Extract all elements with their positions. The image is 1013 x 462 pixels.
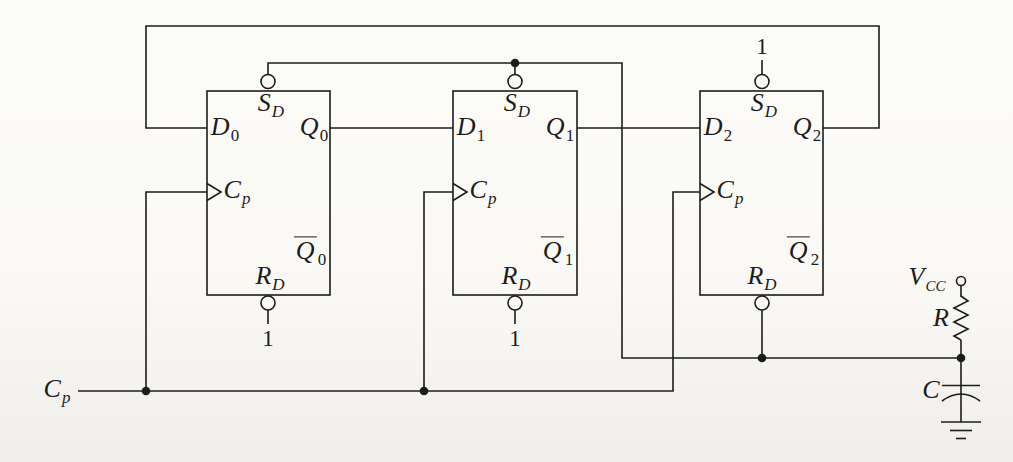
ff0-q-label: Q0 [300,114,328,144]
ff2-qbar-main: Q [787,236,810,264]
ff2-reset-label: RD [747,263,776,293]
resistor-label: R [933,305,949,331]
vcc-label: VCC [909,264,946,294]
ff0-reset-tie: 1 [262,326,274,351]
vcc-terminal-icon [957,277,966,286]
ff1-clock-label: Cp [470,177,497,207]
ff0-q-main: Q [300,112,319,141]
resistor-r: R [933,303,949,332]
ff0-clock-label: Cp [224,177,251,207]
ff0-reset-tie-label: 1 [262,327,274,350]
ff2-q-main: Q [793,112,812,141]
ff1-q-main: Q [546,112,565,141]
ff2-clock-main: C [717,175,734,204]
junction-clock-ff0 [142,387,151,396]
ff1-qbar-main: Q [541,236,564,264]
ff2-set-main: S [751,88,764,117]
clock-input-main: C [44,374,61,403]
wire-clock-ff0 [146,192,207,391]
ff1-reset-tie: 1 [509,326,521,351]
ff2-set-sub: D [765,102,777,121]
ff1-sd-bubble-icon [508,75,522,89]
capacitor-label: C [922,377,939,403]
junction-rd2 [758,354,767,363]
ff2-qbar-sub: 2 [811,250,820,269]
vcc-main: V [909,262,925,291]
ff1-q-sub: 1 [566,126,575,145]
wire-clock-ff1 [424,192,453,391]
schematic-canvas [0,0,1013,462]
clock-input-label: Cp [44,376,71,406]
ff2-rd-bubble-icon [755,296,769,310]
clock-input-sub: p [62,388,71,407]
ff1-qbar-label: Q1 [541,236,573,268]
ff0-qbar-label: Q0 [294,236,326,268]
ff1-set-label: SD [504,90,530,120]
ff1-reset-label: RD [501,263,530,293]
ff0-set-sub: D [272,102,284,121]
junction-sd1 [511,59,520,68]
ff0-set-main: S [258,88,271,117]
ff0-rd-bubble-icon [261,296,275,310]
ff0-d-sub: 0 [231,126,240,145]
ff1-reset-tie-label: 1 [509,327,521,350]
ff1-q-label: Q1 [546,114,574,144]
wire-set-reset-net [268,63,961,358]
junction-rc [957,354,966,363]
junction-clock-ff1 [420,387,429,396]
ff2-d-label: D2 [704,114,732,144]
ff2-q-sub: 2 [813,126,822,145]
ff0-d-label: D0 [211,114,239,144]
ff2-d-main: D [704,112,723,141]
ff2-sd-bubble-icon [755,75,769,89]
ff2-set-tie-label: 1 [756,35,768,58]
ff0-d-main: D [211,112,230,141]
ff1-clock-main: C [470,175,487,204]
ff2-set-tie: 1 [756,34,768,59]
ff2-q-label: Q2 [793,114,821,144]
ff0-qbar-main: Q [294,236,317,264]
ff1-set-sub: D [518,102,530,121]
ff0-set-label: SD [258,90,284,120]
ff1-reset-main: R [501,261,517,290]
ff1-reset-sub: D [518,275,530,294]
ff1-d-sub: 1 [477,126,486,145]
ff1-clock-sub: p [488,189,497,208]
ff2-set-label: SD [751,90,777,120]
ff0-clock-wedge-icon [207,184,221,201]
ff0-q-sub: 0 [320,126,329,145]
ff1-rd-bubble-icon [508,296,522,310]
ff2-clock-wedge-icon [700,184,714,201]
ff2-reset-main: R [747,261,763,290]
ff2-qbar-label: Q2 [787,236,819,268]
ff1-d-main: D [457,112,476,141]
ff0-reset-sub: D [272,275,284,294]
ff2-reset-sub: D [764,275,776,294]
ff0-qbar-sub: 0 [318,250,327,269]
ff2-clock-label: Cp [717,177,744,207]
ff1-clock-wedge-icon [453,184,467,201]
ff0-clock-main: C [224,175,241,204]
capacitor-c: C [922,375,939,404]
ff1-qbar-sub: 1 [565,250,574,269]
ff0-reset-main: R [255,261,271,290]
circuit-diagram: SD D0 Q0 Cp Q0 RD 1 SD D1 Q1 Cp Q1 RD 1 … [0,0,1013,462]
ff0-reset-label: RD [255,263,284,293]
ff0-sd-bubble-icon [261,75,275,89]
vcc-sub: CC [925,278,945,294]
ff2-clock-sub: p [735,189,744,208]
ff1-set-main: S [504,88,517,117]
ff1-d-label: D1 [457,114,485,144]
wire-clock-rail [78,192,700,391]
ff2-d-sub: 2 [724,126,733,145]
ff0-clock-sub: p [242,189,251,208]
resistor-zigzag-icon [954,296,968,340]
